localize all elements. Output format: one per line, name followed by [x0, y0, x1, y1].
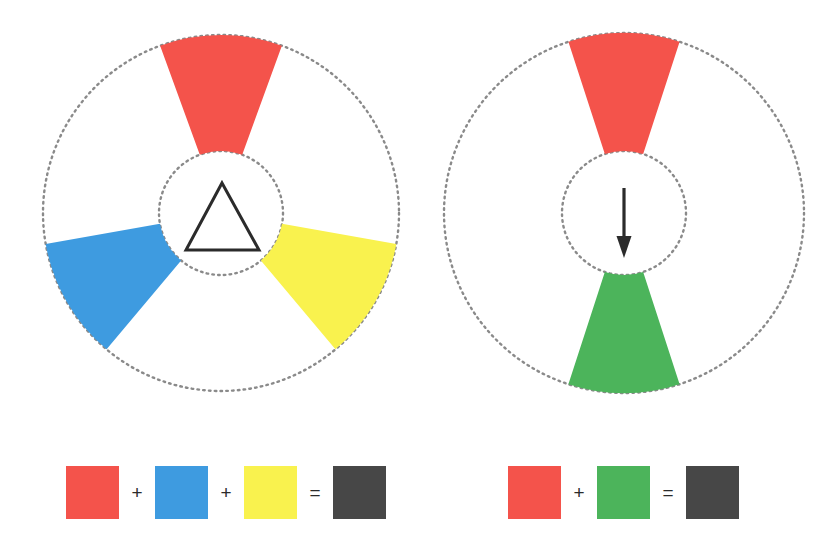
color-wheel-diagram: red+blue+yellow=dark grayred+green=dark … — [0, 0, 839, 557]
green-swatch: green — [597, 466, 650, 519]
equals-operator: = — [662, 482, 673, 503]
red-swatch: red — [66, 466, 119, 519]
plus-operator: + — [220, 482, 231, 503]
blue-swatch: blue — [155, 466, 208, 519]
plus-operator: + — [131, 482, 142, 503]
yellow-swatch: yellow — [244, 466, 297, 519]
figure-root: red+blue+yellow=dark grayred+green=dark … — [0, 0, 839, 557]
plus-operator: + — [573, 482, 584, 503]
two-colour-equation: red+green=dark gray — [508, 466, 739, 519]
red-swatch: red — [508, 466, 561, 519]
equals-operator: = — [309, 482, 320, 503]
dark-gray-swatch: dark gray — [333, 466, 386, 519]
dark-gray-swatch: dark gray — [686, 466, 739, 519]
